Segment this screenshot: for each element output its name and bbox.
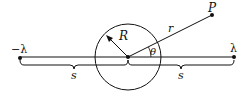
distance-label: r bbox=[168, 23, 173, 34]
left-s-label: s bbox=[71, 70, 77, 81]
pos-lambda-label: λ bbox=[230, 43, 237, 54]
right-s-label: s bbox=[178, 70, 184, 81]
charged-line-diagram: −λ λ R r P θ s s bbox=[0, 0, 247, 97]
point-label: P bbox=[208, 2, 216, 14]
radius-label: R bbox=[119, 30, 128, 42]
left-end-dot bbox=[18, 56, 22, 60]
neg-lambda-label: −λ bbox=[11, 44, 27, 55]
right-brace bbox=[128, 60, 234, 69]
angle-label: θ bbox=[150, 47, 156, 57]
right-end-dot bbox=[232, 55, 236, 59]
left-brace bbox=[20, 60, 128, 69]
